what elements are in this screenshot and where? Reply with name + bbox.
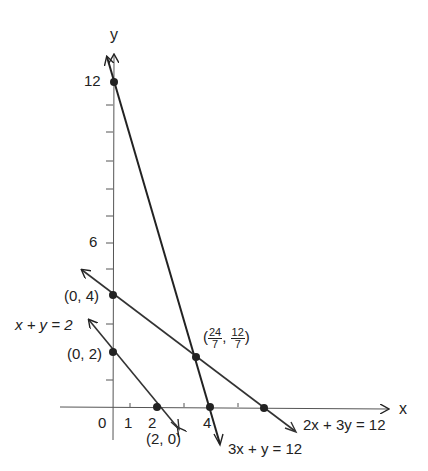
- equation-label-1: x + y = 2: [15, 316, 73, 333]
- y-ticks: [106, 105, 113, 380]
- chart-canvas: [0, 0, 428, 471]
- x-tick-1: 1: [124, 414, 132, 431]
- point-6-0: [260, 404, 268, 412]
- x-axis-label: x: [399, 400, 407, 418]
- y-tick-12: 12: [84, 72, 101, 89]
- x-tick-4: 4: [203, 414, 211, 431]
- point-label-2-0: (2, 0): [146, 430, 181, 447]
- x-ticks: [130, 403, 238, 407]
- x-tick-0: 0: [98, 414, 106, 431]
- point-4-0: [206, 403, 214, 411]
- line-x-plus-y-eq-2: [89, 320, 178, 428]
- point-intersection: [192, 353, 200, 361]
- line-3x-plus-y-eq-12: [107, 57, 220, 444]
- point-0-4: [109, 291, 117, 299]
- point-2-0: [153, 403, 161, 411]
- points: [109, 78, 268, 412]
- y-tick-6: 6: [89, 233, 97, 250]
- y-axis: [113, 55, 114, 440]
- point-0-2: [109, 348, 117, 356]
- y-axis-label: y: [110, 26, 118, 44]
- x-axis: [60, 407, 388, 409]
- point-label-intersection: (247, 127): [203, 327, 250, 350]
- point-label-0-4: (0, 4): [64, 287, 99, 304]
- point-0-12: [110, 78, 118, 86]
- x-tick-2: 2: [148, 414, 156, 431]
- point-label-0-2: (0, 2): [67, 345, 102, 362]
- equation-label-2: 2x + 3y = 12: [303, 416, 386, 433]
- equation-label-3: 3x + y = 12: [228, 440, 302, 457]
